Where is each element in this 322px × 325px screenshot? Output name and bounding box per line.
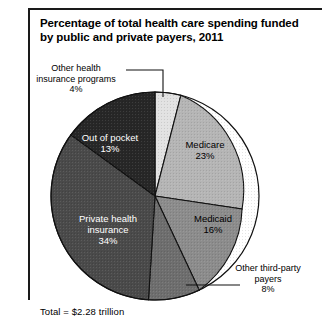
callout-third-party-value: 8%	[222, 284, 314, 295]
pie-slice-label-pocket-name: Out of pocket	[82, 132, 139, 143]
pie-callout-other-health-insurance-programs: Other health insurance programs 4%	[28, 63, 124, 95]
callout-other-health-value: 4%	[28, 84, 124, 95]
callout-other-health-line2: insurance programs	[28, 74, 124, 85]
pie-slice-label-private-line2: insurance	[87, 224, 128, 235]
callout-other-health-line1: Other health	[28, 63, 124, 74]
pie-slice-label-private-value: 34%	[98, 235, 118, 246]
pie-slice-label-medicare-name: Medicare	[185, 139, 224, 150]
pie-slice-label-medicaid-name: Medicaid	[194, 213, 232, 224]
callout-third-party-line2: payers	[222, 274, 314, 285]
pie-slice-label-medicaid-value: 16%	[203, 224, 223, 235]
pie-slice-label-pocket-value: 13%	[100, 143, 120, 154]
pie-chart-figure: Percentage of total health care spending…	[0, 0, 322, 325]
pie-slice-label-private-line1: Private health	[79, 213, 137, 224]
pie-callout-other-third-party-payers: Other third-party payers 8%	[222, 263, 314, 295]
pie-slice-label-medicare-value: 23%	[195, 150, 215, 161]
callout-third-party-line1: Other third-party	[222, 263, 314, 274]
figure-total-note: Total = $2.28 trillion	[40, 306, 124, 317]
